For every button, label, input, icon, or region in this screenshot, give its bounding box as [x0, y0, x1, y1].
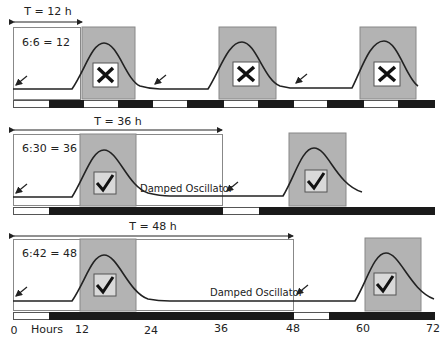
axis-unit-label: Hours — [31, 323, 63, 336]
diagram-canvas: T = 12 h 6:6 = 12 — [0, 0, 447, 346]
ratio-label: 6:42 = 48 — [22, 247, 77, 260]
ratio-label: 6:30 = 36 — [22, 142, 77, 155]
cross-icon — [233, 62, 259, 86]
tick-label: 60 — [356, 322, 370, 335]
pointer-arrow-icon — [296, 74, 307, 83]
panel-t12: T = 12 h 6:6 = 12 — [13, 5, 435, 108]
light-dark-bar — [14, 207, 436, 215]
period-label: T = 12 h — [23, 5, 71, 18]
tick-label: 72 — [426, 322, 440, 335]
tick-label: 24 — [144, 324, 158, 337]
check-icon — [94, 274, 116, 296]
tick-label: 48 — [286, 322, 300, 335]
damped-oscillator-label: Damped Oscillator — [210, 287, 304, 298]
check-icon — [94, 172, 116, 194]
pointer-arrow-icon — [16, 76, 27, 85]
pulse-window — [80, 134, 136, 206]
tick-label: 12 — [75, 323, 89, 336]
pointer-arrow-icon — [16, 184, 27, 193]
check-icon — [305, 170, 327, 192]
panel-t48: T = 48 h 6:42 = 48 Damped Oscillator — [13, 220, 435, 320]
light-dark-bar — [14, 100, 436, 108]
panel-t36: T = 36 h 6:30 = 36 Damped Oscillator — [13, 115, 435, 215]
tick-label: 0 — [11, 324, 18, 337]
pointer-arrow-icon — [155, 75, 166, 84]
tick-label: 36 — [214, 322, 228, 335]
period-label: T = 48 h — [128, 220, 176, 233]
cross-icon — [93, 63, 118, 87]
oscillation-curve — [13, 41, 418, 89]
pointer-arrow-icon — [16, 287, 27, 296]
check-icon — [374, 273, 396, 295]
light-dark-bar — [14, 312, 436, 320]
period-label: T = 36 h — [93, 115, 141, 128]
x-axis: 0 Hours 12 24 36 48 60 72 — [11, 322, 441, 337]
cross-icon — [374, 62, 400, 86]
damped-oscillator-label: Damped Oscillator — [140, 183, 234, 194]
ratio-label: 6:6 = 12 — [22, 36, 70, 49]
